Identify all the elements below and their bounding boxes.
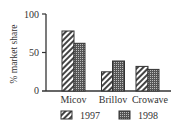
legend-swatch-1998 (119, 111, 130, 119)
category-crowave: Crowave (132, 94, 169, 105)
y-axis: 100 50 0 % market share (9, 9, 46, 97)
bars (62, 31, 159, 91)
legend-swatch-1997 (61, 111, 72, 119)
bar-crowave-1997 (136, 66, 148, 91)
category-brillov: Brillov (99, 94, 127, 105)
bar-micov-1997 (62, 31, 74, 91)
bar-crowave-1998 (148, 69, 159, 91)
bar-brillov-1997 (102, 72, 113, 91)
bar-micov-1998 (74, 43, 85, 91)
legend-label-1998: 1998 (138, 110, 158, 121)
ytick-0: 0 (34, 85, 39, 96)
y-axis-label: % market share (9, 24, 19, 83)
legend: 1997 1998 (61, 110, 158, 121)
category-micov: Micov (60, 94, 86, 105)
ytick-100: 100 (24, 9, 39, 20)
ytick-50: 50 (29, 47, 39, 58)
bar-brillov-1998 (113, 61, 125, 91)
legend-label-1997: 1997 (80, 110, 100, 121)
bar-chart: 100 50 0 % market share Micov Brillov Cr… (0, 0, 182, 125)
